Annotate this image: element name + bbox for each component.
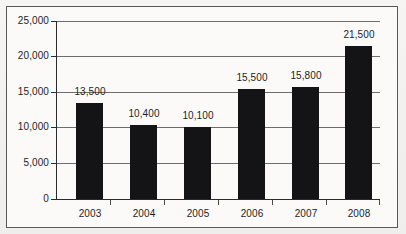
y-tick-mark-25000 (51, 21, 57, 22)
x-tick-label-2005: 2005 (170, 208, 226, 219)
gridline-25000 (56, 21, 380, 22)
chart-figure: 25,000 20,000 15,000 10,000 5,000 0 13,5… (0, 0, 406, 234)
y-tick-label-5000: 5,000 (3, 157, 49, 168)
y-tick-label-20000: 20,000 (3, 50, 49, 61)
gridline-10000 (56, 127, 380, 128)
bar-2004[interactable] (130, 125, 157, 199)
x-tick-mark-6 (379, 200, 380, 205)
x-tick-label-2008: 2008 (331, 208, 387, 219)
x-tick-label-2007: 2007 (278, 208, 334, 219)
y-tick-label-10000: 10,000 (3, 121, 49, 132)
x-tick-label-2006: 2006 (224, 208, 280, 219)
bar-2005[interactable] (184, 127, 211, 199)
y-tick-mark-0 (51, 199, 57, 200)
bar-value-2008: 21,500 (331, 29, 387, 40)
bar-value-2006: 15,500 (224, 72, 280, 83)
x-tick-mark-2 (164, 200, 165, 205)
bar-value-2004: 10,400 (116, 108, 172, 119)
y-tick-mark-15000 (51, 92, 57, 93)
x-tick-mark-5 (326, 200, 327, 205)
y-tick-mark-5000 (51, 163, 57, 164)
bar-value-2007: 15,800 (278, 70, 334, 81)
gridline-20000 (56, 56, 380, 57)
bar-2006[interactable] (238, 89, 265, 199)
bar-value-2003: 13,500 (62, 86, 118, 97)
y-tick-label-15000: 15,000 (3, 86, 49, 97)
y-tick-mark-10000 (51, 127, 57, 128)
x-tick-mark-3 (218, 200, 219, 205)
y-tick-mark-20000 (51, 56, 57, 57)
y-tick-label-0: 0 (3, 193, 49, 204)
x-tick-mark-1 (110, 200, 111, 205)
x-tick-label-2004: 2004 (116, 208, 172, 219)
y-axis-line (56, 21, 57, 200)
bar-value-2005: 10,100 (170, 110, 226, 121)
gridline-5000 (56, 163, 380, 164)
x-tick-mark-4 (272, 200, 273, 205)
bar-2008[interactable] (345, 46, 372, 199)
y-tick-label-25000: 25,000 (3, 15, 49, 26)
plot-area: 25,000 20,000 15,000 10,000 5,000 0 13,5… (0, 0, 406, 234)
bar-2003[interactable] (76, 103, 103, 199)
bar-2007[interactable] (292, 87, 319, 199)
x-tick-label-2003: 2003 (62, 208, 118, 219)
